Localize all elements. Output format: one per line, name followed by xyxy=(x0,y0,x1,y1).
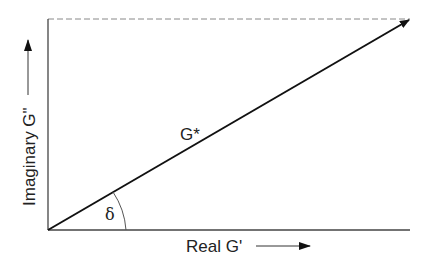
x-axis-label: Real G' xyxy=(186,237,242,256)
angle-label: δ xyxy=(105,205,115,224)
g-star-vector xyxy=(48,20,409,230)
delta-angle-arc xyxy=(113,192,126,230)
diagram-canvas: Real G' Imaginary G" G* δ xyxy=(0,0,429,265)
vector-label: G* xyxy=(180,125,200,144)
y-axis-label: Imaginary G" xyxy=(20,107,39,206)
